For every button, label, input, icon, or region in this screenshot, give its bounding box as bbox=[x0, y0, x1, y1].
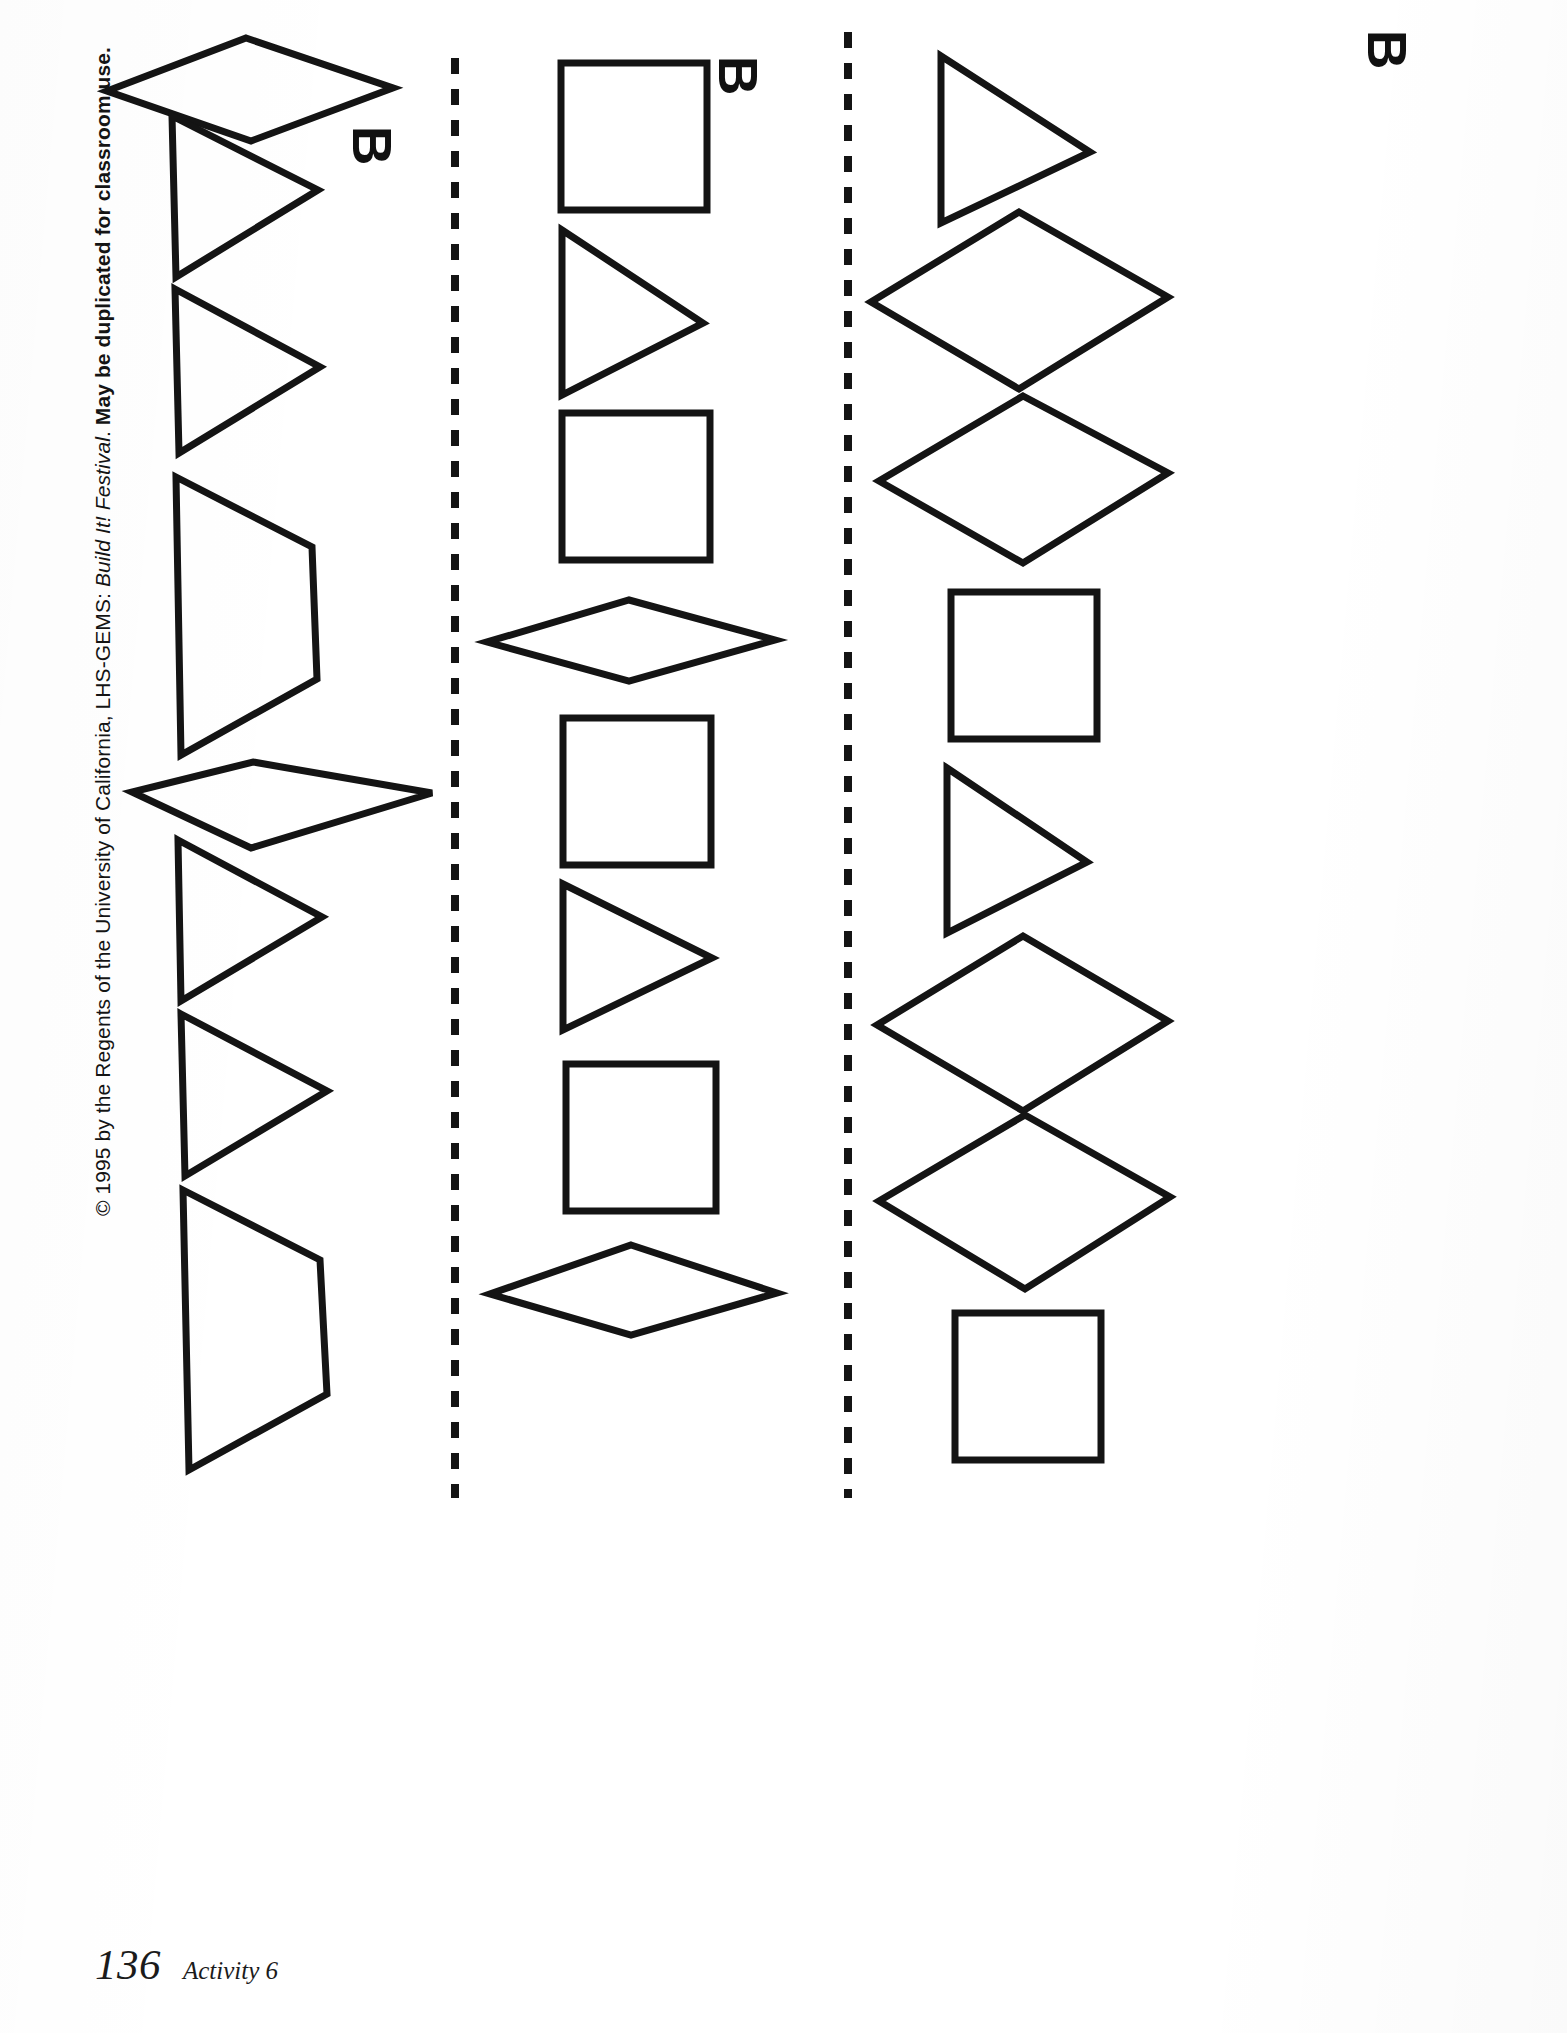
triangle-2 bbox=[947, 768, 1087, 933]
copyright-notice: © 1995 by the Regents of the University … bbox=[91, 136, 115, 1216]
column-label-b-left: B bbox=[344, 126, 399, 166]
rhombus-1 bbox=[871, 212, 1168, 389]
square-1 bbox=[561, 63, 707, 210]
triangle-1 bbox=[562, 230, 703, 395]
page-footer: 136Activity 6 bbox=[95, 1940, 278, 1989]
copyright-plain-2: . bbox=[91, 425, 114, 437]
square-2 bbox=[562, 413, 710, 560]
triangle-1 bbox=[941, 56, 1090, 223]
worksheet-page: B B B © 1995 by the Regents of the Unive… bbox=[0, 0, 1567, 2033]
rhombus-1 bbox=[487, 600, 775, 681]
activity-label: Activity 6 bbox=[183, 1957, 278, 1984]
square-3 bbox=[563, 718, 711, 865]
triangle-2 bbox=[175, 289, 320, 453]
rhombus-4 bbox=[879, 1115, 1170, 1289]
cut-lines bbox=[455, 32, 848, 1498]
page-number: 136 bbox=[95, 1941, 161, 1988]
square-2 bbox=[955, 1313, 1101, 1460]
copyright-permission: May be duplicated for classroom use. bbox=[91, 47, 114, 425]
square-4 bbox=[566, 1064, 716, 1211]
column-label-b-middle: B bbox=[710, 56, 765, 96]
column-label-b-right: B bbox=[1359, 30, 1414, 70]
rhombus-3 bbox=[877, 936, 1168, 1111]
copyright-plain-1: © 1995 by the Regents of the University … bbox=[91, 587, 114, 1216]
triangle-3 bbox=[178, 840, 322, 1001]
triangle-2 bbox=[563, 884, 712, 1030]
square-1 bbox=[951, 592, 1097, 739]
rhombus-2 bbox=[132, 762, 432, 848]
column-b-right bbox=[871, 56, 1170, 1460]
trapezoid-1 bbox=[176, 477, 317, 755]
copyright-title: Build It! Festival bbox=[91, 437, 114, 587]
trapezoid-2 bbox=[183, 1190, 327, 1470]
shapes-canvas bbox=[0, 0, 1567, 2033]
rhombus-2 bbox=[879, 396, 1168, 563]
triangle-4 bbox=[181, 1014, 327, 1176]
column-b-middle bbox=[487, 63, 777, 1335]
rhombus-2 bbox=[490, 1245, 777, 1335]
column-b-left bbox=[107, 38, 432, 1470]
